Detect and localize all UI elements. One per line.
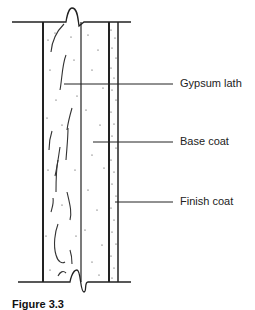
label-base-coat: Base coat [180, 135, 229, 147]
boundary-lines [12, 8, 131, 292]
gypsum-fibers [49, 24, 72, 276]
label-gypsum-lath: Gypsum lath [180, 77, 242, 89]
figure-caption: Figure 3.3 [12, 298, 64, 310]
label-finish-coat: Finish coat [180, 195, 233, 207]
